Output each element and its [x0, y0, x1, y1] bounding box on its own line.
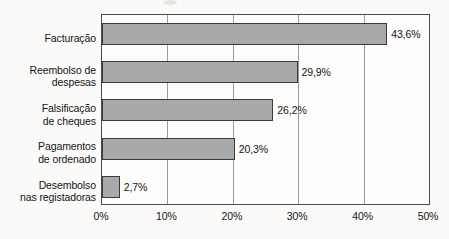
category-label-line: Facturação	[0, 32, 96, 45]
category-label-desembolso-nas-registadoras: Desembolso nas registadoras	[0, 179, 96, 204]
bar-value-facturacao: 43,6%	[391, 24, 420, 44]
bar-value-desembolso-nas-registadoras: 2,7%	[124, 177, 148, 197]
category-label-line: Reembolso de	[0, 64, 96, 77]
xtick-label-0: 0%	[71, 210, 131, 222]
bar-slot: 43,6%	[102, 15, 429, 53]
xtick-label-20: 20%	[202, 210, 262, 222]
bar-slot: 2,7%	[102, 168, 429, 206]
category-label-falsificacao-de-cheques: Falsificação de cheques	[0, 102, 96, 127]
xtick-label-30: 30%	[267, 210, 327, 222]
category-label-line: de cheques	[0, 115, 96, 128]
bar-chart: Facturação Reembolso de despesas Falsifi…	[0, 0, 449, 239]
category-label-line: Desembolso	[0, 179, 96, 192]
category-label-pagamentos-de-ordenado: Pagamentos de ordenado	[0, 140, 96, 165]
bar-facturacao[interactable]	[102, 23, 387, 45]
category-label-facturacao: Facturação	[0, 32, 96, 45]
xtick-label-10: 10%	[136, 210, 196, 222]
bar-falsificacao-de-cheques[interactable]	[102, 99, 273, 121]
scan-artifact	[163, 0, 177, 5]
bar-slot: 29,9%	[102, 53, 429, 91]
bar-slot: 20,3%	[102, 130, 429, 168]
category-label-reembolso-de-despesas: Reembolso de despesas	[0, 64, 96, 89]
plot-area: 43,6% 29,9% 26,2% 20,3% 2,7%	[101, 14, 430, 205]
bar-desembolso-nas-registadoras[interactable]	[102, 176, 120, 198]
category-label-line: despesas	[0, 76, 96, 89]
bar-value-falsificacao-de-cheques: 26,2%	[277, 100, 306, 120]
bar-reembolso-de-despesas[interactable]	[102, 61, 298, 83]
bar-value-reembolso-de-despesas: 29,9%	[302, 62, 331, 82]
xtick-label-40: 40%	[333, 210, 393, 222]
xtick-label-50: 50%	[398, 210, 449, 222]
category-label-line: Pagamentos	[0, 140, 96, 153]
bar-pagamentos-de-ordenado[interactable]	[102, 138, 235, 160]
category-label-line: de ordenado	[0, 153, 96, 166]
bar-value-pagamentos-de-ordenado: 20,3%	[239, 139, 268, 159]
category-label-line: nas registadoras	[0, 191, 96, 204]
bar-slot: 26,2%	[102, 91, 429, 129]
category-label-line: Falsificação	[0, 102, 96, 115]
